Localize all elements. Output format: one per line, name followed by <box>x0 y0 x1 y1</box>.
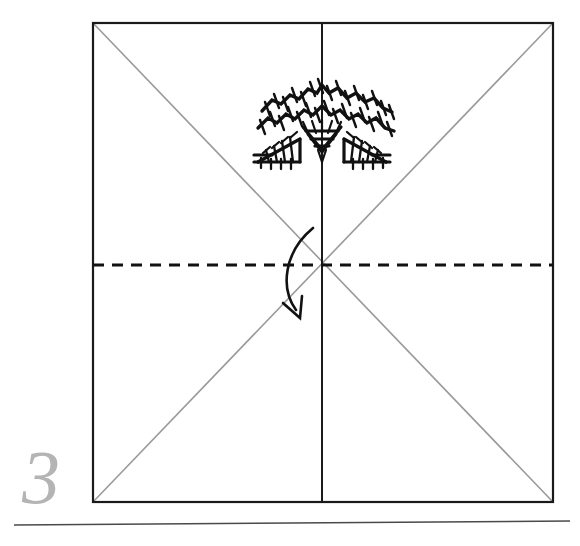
diagram-canvas <box>0 0 580 546</box>
origami-step-diagram: 3 <box>0 0 580 546</box>
step-number: 3 <box>10 437 72 517</box>
footer-divider <box>14 521 570 525</box>
